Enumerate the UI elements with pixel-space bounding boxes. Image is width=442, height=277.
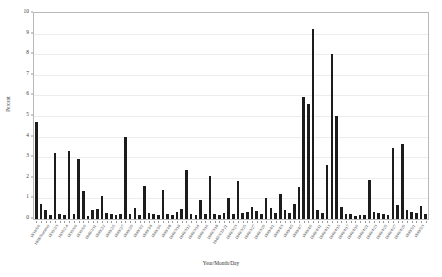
bar [105,213,108,219]
bar [185,170,188,219]
bar [148,213,151,219]
bar [115,215,118,219]
bar [82,191,85,219]
bar [387,215,390,219]
x-tick-mark [285,221,286,223]
bar [406,210,409,219]
bar [377,213,380,219]
x-tick-mark [50,221,51,223]
bar [96,209,99,219]
x-tick-mark [369,221,370,223]
x-tick-mark [191,221,192,223]
bar [77,159,80,219]
bar [195,215,198,219]
x-tick-mark [210,221,211,223]
bar [190,214,193,219]
bar [396,205,399,219]
x-tick-mark [88,221,89,223]
x-tick-mark [294,221,295,223]
bar [251,207,254,219]
bar [129,214,132,219]
x-tick-mark [238,221,239,223]
bar [176,212,179,219]
y-tick-label: 7 [26,71,29,76]
x-tick-mark [69,221,70,223]
bar [138,215,141,219]
bar [312,29,315,219]
bar [40,204,43,219]
x-tick-mark [247,221,248,223]
bar [260,214,263,219]
bar [392,148,395,219]
bar [293,204,296,219]
y-tick-label: 4 [26,133,29,138]
bar [63,215,66,219]
bar [326,165,329,219]
x-tick-mark [60,221,61,223]
bar [265,198,268,219]
bar [284,210,287,219]
y-tick-label: 1 [26,195,29,200]
y-tick-label: 0 [26,215,29,220]
x-tick-mark [107,221,108,223]
x-tick-mark [144,221,145,223]
bar [321,213,324,219]
bar [35,122,38,219]
bar [302,97,305,219]
bar [209,176,212,219]
bar [274,213,277,219]
x-tick-mark [135,221,136,223]
x-tick-mark [125,221,126,223]
bar [119,214,122,219]
x-tick-mark [163,221,164,223]
bar [340,207,343,219]
bar [316,210,319,219]
bar [363,215,366,219]
y-tick-label: 5 [26,112,29,117]
bar [218,215,221,219]
bar [401,144,404,219]
x-tick-mark [116,221,117,223]
bar [101,196,104,219]
x-tick-mark [322,221,323,223]
bar [415,213,418,219]
bar [354,216,357,219]
bar [68,151,71,219]
bar [255,211,258,219]
bar [143,186,146,219]
bar [373,212,376,219]
x-axis-title: Year/Month/Day [0,260,442,266]
y-tick-label: 10 [23,9,29,14]
x-axis: 1834/6/61838/Summer1839/2/31839/2-41839/… [34,221,428,263]
bar [410,212,413,219]
bar [58,214,61,219]
x-tick-mark [97,221,98,223]
x-tick-mark [398,221,399,223]
x-tick-mark [182,221,183,223]
bar [199,200,202,219]
bar [110,214,113,219]
x-tick-mark [426,221,427,223]
y-tick-label: 2 [26,174,29,179]
bar [213,214,216,219]
bar [279,194,282,219]
bar-chart: 012345678910 Percent 1834/6/61838/Summer… [0,0,442,277]
bar [162,190,165,219]
x-tick-mark [79,221,80,223]
x-tick-mark [416,221,417,223]
bar [368,180,371,219]
x-tick-mark [201,221,202,223]
x-tick-mark [304,221,305,223]
bar [335,116,338,219]
bar [134,208,137,219]
x-tick-mark [332,221,333,223]
y-tick-label: 3 [26,153,29,158]
bar [270,208,273,219]
x-tick-mark [257,221,258,223]
bar [232,214,235,219]
y-tick-label: 8 [26,50,29,55]
bar [298,187,301,219]
bar [237,181,240,219]
bar [345,214,348,219]
x-tick-mark [229,221,230,223]
